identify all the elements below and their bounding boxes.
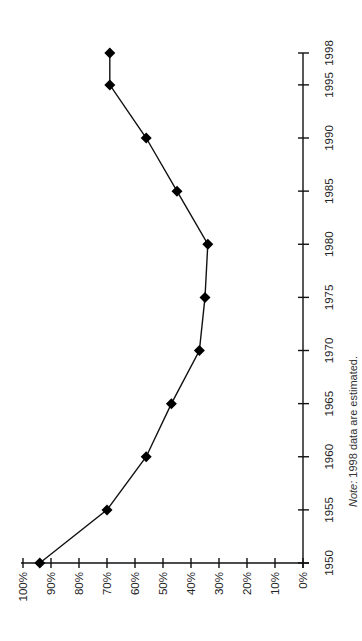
year-tick-label: 1975 (323, 285, 335, 311)
footnote-text: 1998 data are estimated. (347, 356, 359, 481)
year-tick-label: 1965 (323, 391, 335, 417)
year-tick-label: 1950 (323, 550, 335, 576)
year-axis-labels: 1950195519601965197019751980198519901995… (323, 40, 335, 576)
year-tick-label: 1980 (323, 231, 335, 257)
diamond-marker-icon (141, 451, 152, 462)
data-series-line (40, 53, 208, 563)
diamond-marker-icon (194, 345, 205, 356)
percentage-tick-label: 60% (129, 572, 141, 595)
percentage-tick-label: 90% (45, 572, 57, 595)
year-tick-label: 1960 (323, 444, 335, 470)
rotated-line-chart: 0%10%20%30%40%50%60%70%80%90%100% 195019… (0, 0, 362, 641)
percentage-axis-labels: 0%10%20%30%40%50%60%70%80%90%100% (17, 572, 309, 601)
year-tick-label: 1995 (323, 72, 335, 98)
diamond-marker-icon (104, 79, 115, 90)
year-tick-label: 1985 (323, 178, 335, 204)
percentage-tick-label: 80% (73, 572, 85, 595)
percentage-tick-label: 40% (185, 572, 197, 595)
percentage-tick-label: 100% (17, 572, 29, 601)
year-tick-label: 1955 (323, 497, 335, 523)
diamond-marker-icon (172, 186, 183, 197)
percentage-tick-label: 30% (213, 572, 225, 595)
percentage-tick-label: 50% (157, 572, 169, 595)
footnote: Note: 1998 data are estimated. (347, 356, 359, 507)
diamond-marker-icon (141, 133, 152, 144)
percentage-tick-label: 0% (297, 572, 309, 589)
year-tick-label: 1990 (323, 125, 335, 151)
footnote-prefix: Note: (347, 481, 359, 507)
year-tick-label: 1998 (323, 40, 335, 66)
diamond-marker-icon (200, 292, 211, 303)
diamond-marker-icon (104, 48, 115, 59)
chart-axes (21, 53, 309, 568)
year-tick-label: 1970 (323, 338, 335, 364)
diamond-marker-icon (202, 239, 213, 250)
data-point-markers (34, 48, 213, 569)
percentage-tick-label: 70% (101, 572, 113, 595)
percentage-tick-label: 20% (241, 572, 253, 595)
percentage-tick-label: 10% (269, 572, 281, 595)
diamond-marker-icon (166, 398, 177, 409)
